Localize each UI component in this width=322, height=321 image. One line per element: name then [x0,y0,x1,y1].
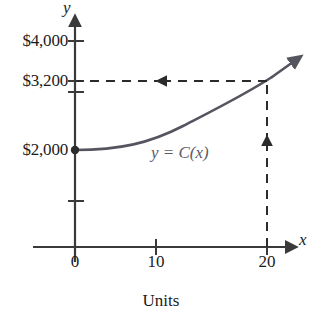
x-axis-name: x [299,230,307,250]
y-axis-name: y [63,0,71,18]
x-tick-label-20: 20 [251,252,283,272]
cost-curve [71,62,293,154]
dashed-guides [76,81,267,247]
cost-function-graph: $4,000 $3,200 $2,000 0 10 20 y x y = C(x… [0,0,322,321]
y-tick-label-2000: $2,000 [6,140,68,160]
x-tick-label-0: 0 [59,252,91,272]
y-tick-label-4000: $4,000 [6,31,68,51]
y-tick-label-3200: $3,200 [6,71,68,91]
x-tick-label-10: 10 [140,252,172,272]
curve-end-arrow-icon [272,62,293,77]
y-axis [68,24,84,262]
x-axis-title: Units [0,291,322,311]
curve-label: y = C(x) [151,143,209,163]
curve-path [75,77,272,150]
initial-cost-point [71,146,79,154]
